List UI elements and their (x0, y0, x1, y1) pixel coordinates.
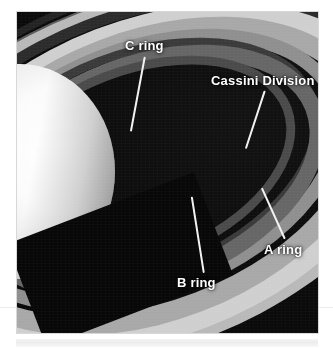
label-a-ring: A ring (264, 242, 302, 257)
label-c-ring: C ring (125, 38, 164, 53)
label-b-ring: B ring (177, 275, 216, 290)
label-cassini-division: Cassini Division (211, 73, 315, 88)
saturn-rings-photograph: C ring Cassini Division B ring A ring (17, 12, 318, 333)
scan-band (16, 339, 318, 347)
figure-page: C ring Cassini Division B ring A ring (0, 0, 333, 349)
ring-system (17, 12, 318, 333)
